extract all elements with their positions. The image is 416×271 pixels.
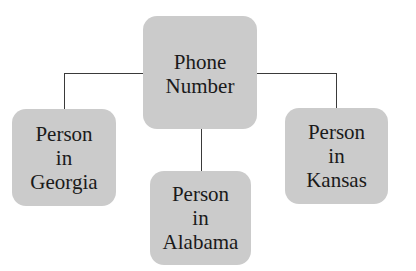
label-line: Georgia <box>30 170 97 194</box>
node-person-in-alabama-label: Person in Alabama <box>163 182 239 254</box>
node-phone-number-label: Phone Number <box>166 50 235 98</box>
node-person-in-alabama: Person in Alabama <box>150 171 251 265</box>
node-person-in-kansas-label: Person in Kansas <box>306 120 367 192</box>
label-line: in <box>163 206 239 230</box>
label-line: in <box>306 144 367 168</box>
label-line: Alabama <box>163 230 239 254</box>
label-line: in <box>30 146 97 170</box>
connector-center-to-georgia-vertical <box>64 73 65 109</box>
diagram-canvas: Phone Number Person in Georgia Person in… <box>0 0 416 271</box>
connector-center-to-kansas-horizontal <box>257 73 337 74</box>
label-line: Person <box>30 122 97 146</box>
connector-center-to-alabama <box>201 129 202 171</box>
label-line: Number <box>166 74 235 98</box>
node-person-in-kansas: Person in Kansas <box>285 108 388 204</box>
connector-center-to-georgia-horizontal <box>64 73 143 74</box>
node-person-in-georgia-label: Person in Georgia <box>30 122 97 194</box>
node-phone-number: Phone Number <box>143 16 257 129</box>
label-line: Person <box>306 120 367 144</box>
label-line: Person <box>163 182 239 206</box>
label-line: Kansas <box>306 168 367 192</box>
label-line: Phone <box>166 50 235 74</box>
node-person-in-georgia: Person in Georgia <box>12 109 116 206</box>
connector-center-to-kansas-vertical <box>336 73 337 108</box>
